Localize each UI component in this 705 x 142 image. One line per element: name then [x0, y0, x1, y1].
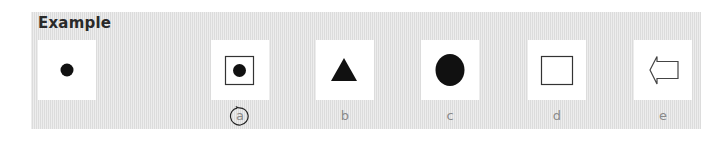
square-outline-icon: [528, 40, 586, 100]
dot-icon: [38, 40, 96, 100]
option-card-b[interactable]: [316, 40, 374, 100]
option-label-d: d: [528, 108, 586, 123]
option-card-a[interactable]: [211, 40, 269, 100]
option-label-b: b: [316, 108, 374, 123]
option-label-c: c: [421, 108, 479, 123]
large-circle-icon: [421, 40, 479, 100]
left-arrow-icon: [634, 40, 692, 100]
option-label-a: a: [211, 108, 269, 123]
dot-in-square-icon: [211, 40, 269, 100]
option-card-d[interactable]: [528, 40, 586, 100]
example-heading: Example: [38, 14, 111, 32]
option-card-c[interactable]: [421, 40, 479, 100]
triangle-icon: [316, 40, 374, 100]
option-card-e[interactable]: [634, 40, 692, 100]
prompt-card: [38, 40, 96, 100]
option-label-e: e: [634, 108, 692, 123]
